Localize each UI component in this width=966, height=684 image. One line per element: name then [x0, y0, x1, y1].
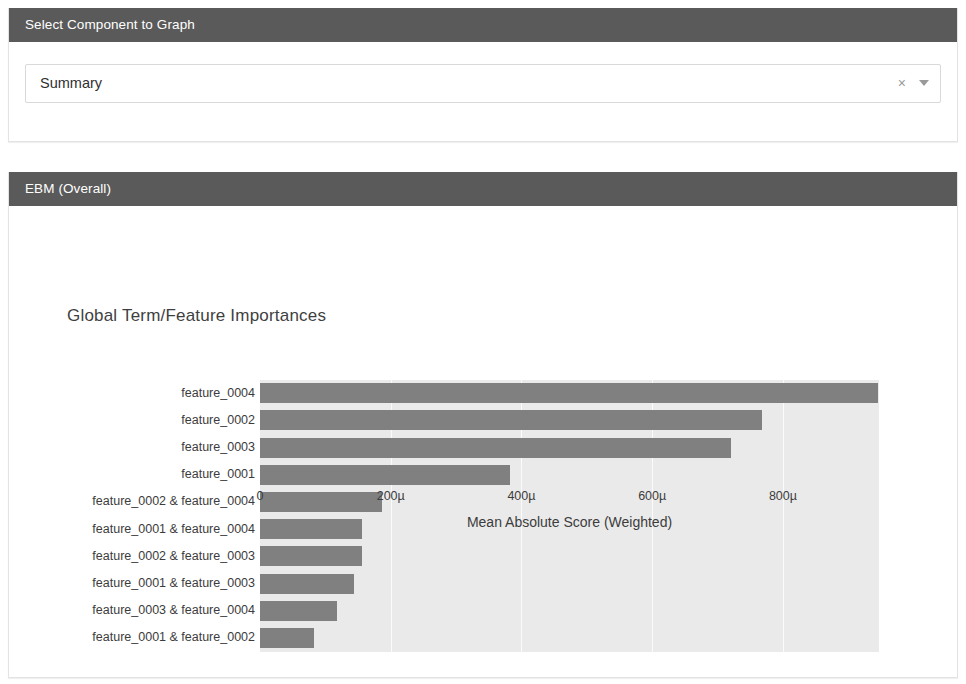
bar-row[interactable]: feature_0002 & feature_0003 [260, 543, 362, 570]
ebm-chart-body: Global Term/Feature Importances feature_… [9, 206, 957, 684]
bar-row[interactable]: feature_0004 [260, 380, 878, 407]
bar-category-label: feature_0002 & feature_0004 [92, 488, 255, 515]
bar-category-label: feature_0003 [181, 434, 255, 461]
bar-category-label: feature_0002 [181, 407, 255, 434]
bar[interactable] [260, 601, 337, 621]
bar[interactable] [260, 410, 762, 430]
x-axis-tick-label: 200µ [377, 489, 405, 503]
select-component-panel-body: Summary × [9, 42, 957, 121]
bar-chart: feature_0004feature_0002feature_0003feat… [9, 206, 966, 684]
x-axis-tick-label: 0 [257, 489, 264, 503]
bar-category-label: feature_0002 & feature_0003 [92, 543, 255, 570]
select-component-panel-header: Select Component to Graph [9, 8, 957, 42]
bar-category-label: feature_0003 & feature_0004 [92, 597, 255, 624]
bar-row[interactable]: feature_0003 & feature_0004 [260, 597, 337, 624]
bar-row[interactable]: feature_0001 & feature_0002 [260, 624, 314, 651]
select-component-panel: Select Component to Graph Summary × [8, 8, 958, 142]
bar[interactable] [260, 383, 878, 403]
bar-row[interactable]: feature_0001 [260, 461, 510, 488]
chevron-down-icon[interactable] [919, 80, 929, 86]
bar[interactable] [260, 628, 314, 648]
bar-row[interactable]: feature_0002 [260, 407, 762, 434]
bar-category-label: feature_0001 & feature_0003 [92, 570, 255, 597]
bar[interactable] [260, 574, 354, 594]
x-axis-tick-label: 400µ [507, 489, 535, 503]
bar-category-label: feature_0001 [181, 461, 255, 488]
bar[interactable] [260, 546, 362, 566]
bar-category-label: feature_0004 [181, 380, 255, 407]
close-icon[interactable]: × [898, 76, 906, 90]
bar-row[interactable]: feature_0002 & feature_0004 [260, 488, 382, 515]
component-select-value[interactable]: Summary [26, 75, 898, 91]
bar[interactable] [260, 492, 382, 512]
ebm-overall-panel: EBM (Overall) Global Term/Feature Import… [8, 172, 958, 678]
ebm-overall-panel-header: EBM (Overall) [9, 172, 957, 206]
component-select-icons: × [898, 76, 940, 90]
x-axis-label: Mean Absolute Score (Weighted) [260, 514, 879, 530]
bar-category-label: feature_0001 & feature_0004 [92, 516, 255, 543]
x-axis-tick-label: 600µ [638, 489, 666, 503]
bar-row[interactable]: feature_0001 & feature_0003 [260, 570, 354, 597]
component-select[interactable]: Summary × [25, 64, 941, 103]
bar-category-label: feature_0001 & feature_0002 [92, 624, 255, 651]
bar[interactable] [260, 438, 731, 458]
x-axis-tick-label: 800µ [769, 489, 797, 503]
bar-row[interactable]: feature_0003 [260, 434, 731, 461]
bar[interactable] [260, 465, 510, 485]
